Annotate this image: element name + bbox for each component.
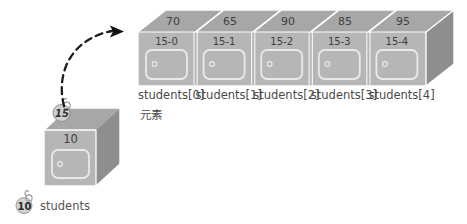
cell-top-value: 90 (268, 16, 308, 27)
cell-top-value: 70 (153, 16, 193, 27)
cell-caption: students[1] (196, 90, 254, 102)
cell-front-id: 15-2 (261, 37, 302, 47)
legend-label: students (40, 201, 90, 213)
reference-cube (44, 108, 120, 186)
legend-tag-value: 10 (16, 202, 33, 212)
cube-tag-value: 15 (53, 109, 71, 119)
cell-caption: students[0] (138, 90, 196, 102)
assignment-arrow (62, 26, 124, 107)
cell-front-id: 15-4 (376, 37, 417, 47)
cube-front-value: 10 (52, 134, 89, 146)
cell-front-id: 15-3 (319, 37, 360, 47)
arrow-dashed-path (62, 31, 112, 106)
cell-top-value: 95 (383, 16, 423, 27)
element-annotation-cn: 元素 (140, 110, 162, 122)
cell-front-id: 15-0 (146, 37, 187, 47)
cell-top-value: 85 (325, 16, 365, 27)
cell-caption: students[2] (253, 90, 311, 102)
cell-caption: students[4] (368, 90, 426, 102)
diagram-canvas: 70 65 90 85 95 15-0 15-1 15-2 15-3 15-4 … (0, 0, 467, 224)
cell-top-value: 65 (210, 16, 250, 27)
cell-caption: students[3] (311, 90, 369, 102)
cell-front-id: 15-1 (204, 37, 245, 47)
